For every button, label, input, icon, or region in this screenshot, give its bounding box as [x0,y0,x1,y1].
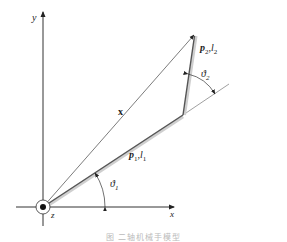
theta-1-arc [95,173,105,207]
link-1-extension-line [183,84,229,115]
diagram-graphics [0,0,287,242]
z-axis-symbol [36,200,50,214]
theta-2-label: ϑ2 [201,69,209,82]
link-2-label: p2,l2 [200,43,217,56]
z-axis-label: z [51,211,55,220]
y-axis-label: y [32,13,36,23]
link-1-label: p1,l1 [129,150,146,163]
link-1 [43,115,183,209]
x-axis-label: x [170,210,174,219]
end-effector-vector [43,35,194,207]
end-effector-vector-label: x [118,107,123,117]
figure-caption: 图 二轴机械手模型 [0,231,287,242]
theta-1-label: ϑ1 [110,179,118,192]
two-link-manipulator-diagram: y x z x p1,l1 p2,l2 ϑ1 ϑ2 图 二轴机械手模型 [0,0,287,242]
